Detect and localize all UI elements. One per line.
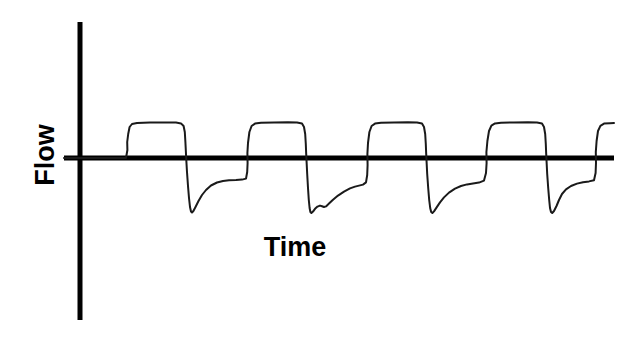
axes-group xyxy=(64,22,614,320)
y-axis-label: Flow xyxy=(7,110,83,200)
flow-time-figure: Flow Time xyxy=(0,0,640,340)
data-series-group xyxy=(64,122,614,213)
waveform-plot xyxy=(0,0,640,340)
x-axis-label: Time xyxy=(230,232,360,263)
flow-waveform-line xyxy=(64,122,614,213)
